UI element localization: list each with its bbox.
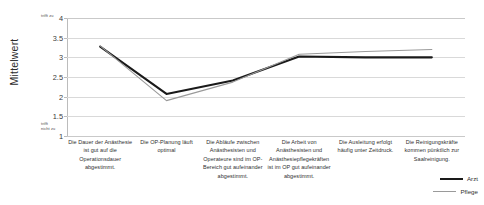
x-axis-category-label: Die Dauer der Anästhesie ist gut auf die… [67,138,133,180]
y-tick-label: 1 [59,132,63,141]
scale-anchor-high-text: trifft zu [41,13,54,18]
y-axis-title: Mittelwert [8,27,20,97]
chart-legend: ArztPflege [392,172,478,198]
x-axis-category-label: Die Abläufe zwischen Anästhesisten und O… [200,138,266,180]
legend-swatch-arzt [440,178,463,180]
legend-label: Pflege [460,188,478,195]
plot-area: 11.522.533.54 [67,18,465,136]
y-tick-label: 3 [59,53,63,62]
legend-item[interactable]: Pflege [392,185,478,198]
y-tick-label: 2 [59,92,63,101]
legend-item[interactable]: Arzt [392,172,478,185]
gridline [67,136,465,137]
line-chart: Mittelwert trifft zu trifft nicht zu 11.… [0,0,484,205]
y-tick-label: 2.5 [53,73,63,82]
y-tick-label: 4 [59,14,63,23]
series-lines [67,18,465,136]
x-axis-category-label: Die Arbeit von Anästhesisten und Anästhe… [266,138,332,180]
y-tick-mark [64,136,67,137]
legend-label: Arzt [467,175,478,182]
legend-swatch-pflege [433,191,456,192]
y-tick-label: 1.5 [53,112,63,121]
series-line-pflege [100,46,432,101]
y-tick-label: 3.5 [53,33,63,42]
x-axis-category-label: Die Ausleitung erfolgt häufig unter Zeit… [332,138,398,180]
x-axis-category-label: Die OP-Planung läuft optimal [133,138,199,180]
